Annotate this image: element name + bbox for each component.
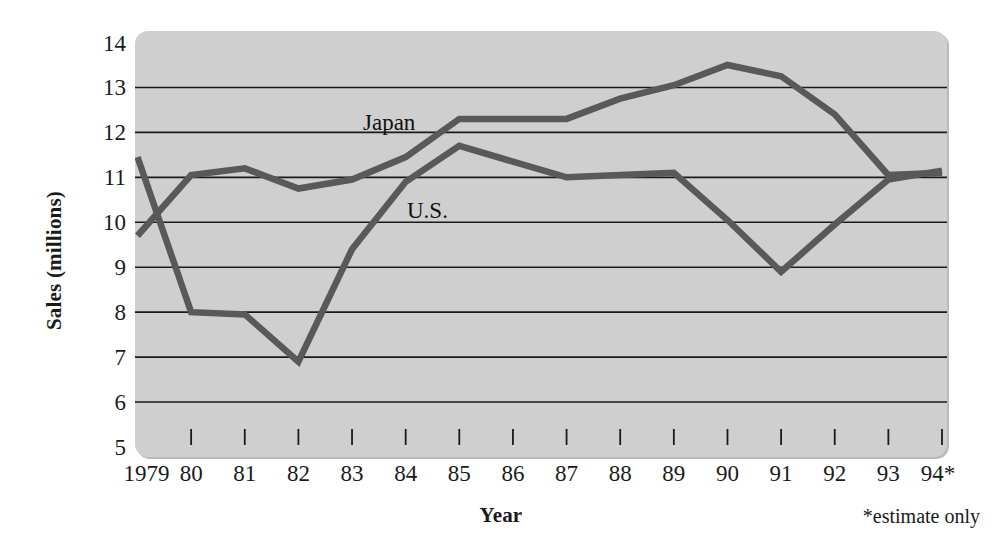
series-label-us: U.S. xyxy=(407,199,448,222)
x-tick-label-1979: 1979 xyxy=(124,462,170,485)
series-line-japan xyxy=(138,65,943,236)
x-tick-label-81: 81 xyxy=(233,462,256,485)
x-tick-label-91: 91 xyxy=(770,462,793,485)
gridlines xyxy=(135,87,947,402)
series-line-u-s xyxy=(138,146,943,362)
x-axis-tick-marks xyxy=(191,429,942,445)
footnote-estimate-only: *estimate only xyxy=(863,506,980,526)
y-tick-5: 5 xyxy=(82,436,126,459)
data-series xyxy=(138,65,943,362)
line-chart-figure: Sales (millions) 141312111098765 Japan U… xyxy=(0,0,1002,555)
x-tick-label-89: 89 xyxy=(662,462,685,485)
y-tick-13: 13 xyxy=(82,76,126,99)
x-tick-label-84: 84 xyxy=(394,462,417,485)
y-tick-10: 10 xyxy=(82,211,126,234)
y-tick-9: 9 xyxy=(82,256,126,279)
x-tick-label-87: 87 xyxy=(555,462,578,485)
x-tick-label-80: 80 xyxy=(180,462,203,485)
x-tick-label-93: 93 xyxy=(877,462,900,485)
plot-area: Japan U.S. xyxy=(135,31,947,457)
y-tick-7: 7 xyxy=(82,346,126,369)
y-axis-title: Sales (millions) xyxy=(42,141,67,381)
series-label-japan: Japan xyxy=(363,111,415,134)
x-tick-label-83: 83 xyxy=(341,462,364,485)
y-tick-14: 14 xyxy=(82,32,126,55)
x-tick-label-85: 85 xyxy=(448,462,471,485)
x-axis-title: Year xyxy=(0,503,1002,528)
y-tick-12: 12 xyxy=(82,121,126,144)
x-tick-label-94-est: 94* xyxy=(921,462,956,485)
plot-svg xyxy=(135,31,947,457)
y-tick-8: 8 xyxy=(82,301,126,324)
x-tick-label-82: 82 xyxy=(287,462,310,485)
x-tick-label-90: 90 xyxy=(716,462,739,485)
y-tick-6: 6 xyxy=(82,391,126,414)
x-tick-label-92: 92 xyxy=(823,462,846,485)
x-tick-label-86: 86 xyxy=(501,462,524,485)
x-tick-label-88: 88 xyxy=(609,462,632,485)
y-tick-11: 11 xyxy=(82,166,126,189)
x-axis-tick-labels: 1979808182838485868788899091929394* xyxy=(0,462,1002,496)
